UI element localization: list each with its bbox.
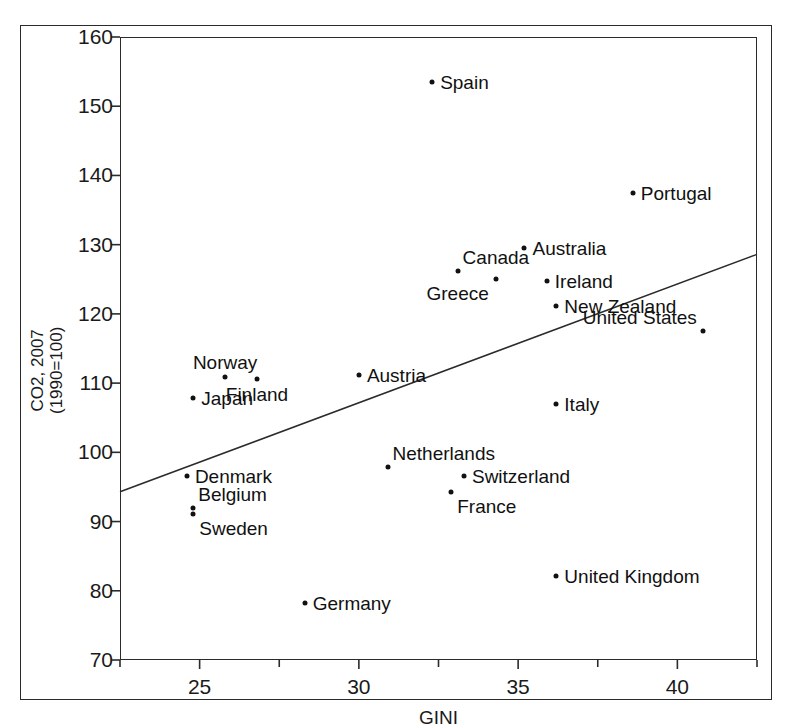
data-point-marker xyxy=(700,329,705,334)
data-point-label: Norway xyxy=(193,352,257,371)
data-point-label: Austria xyxy=(367,366,426,385)
data-point-marker xyxy=(385,464,390,469)
data-point-label: Belgium xyxy=(198,484,267,503)
data-point-marker xyxy=(223,374,228,379)
data-point-marker xyxy=(254,376,259,381)
data-point-marker xyxy=(554,573,559,578)
data-point-label: Japan xyxy=(201,389,253,408)
data-point-marker xyxy=(430,79,435,84)
x-axis-tick-label: 40 xyxy=(666,676,689,697)
data-point-label: Switzerland xyxy=(472,466,570,485)
y-axis-tick-label: 100 xyxy=(78,441,113,462)
y-axis-title-line2: (1990=100) xyxy=(47,327,66,414)
y-axis-tick-label: 130 xyxy=(78,234,113,255)
x-axis-title: GINI xyxy=(419,708,458,727)
data-point-label: Australia xyxy=(532,239,606,258)
data-point-label: Netherlands xyxy=(393,443,495,462)
data-point-label: United Kingdom xyxy=(564,566,699,585)
data-point-label: Sweden xyxy=(199,518,268,537)
data-point-marker xyxy=(554,401,559,406)
y-axis-tick-label: 160 xyxy=(78,26,113,47)
data-point-marker xyxy=(302,600,307,605)
data-point-marker xyxy=(449,489,454,494)
y-axis-tick-label: 110 xyxy=(80,372,113,393)
data-point-marker xyxy=(461,473,466,478)
data-point-label: Italy xyxy=(564,394,599,413)
data-point-label: Spain xyxy=(440,72,489,91)
data-point-label: United States xyxy=(583,308,697,327)
x-axis-tick-label: 35 xyxy=(506,676,529,697)
x-axis-tick-label: 25 xyxy=(188,676,211,697)
y-axis-tick-label: 140 xyxy=(78,164,113,185)
y-axis-tick-label: 80 xyxy=(90,580,113,601)
data-point-label: Ireland xyxy=(555,271,613,290)
data-point-label: Portugal xyxy=(641,183,712,202)
y-axis-tick-label: 70 xyxy=(90,649,113,670)
data-point-marker xyxy=(455,268,460,273)
data-point-label: Canada xyxy=(463,247,530,266)
data-point-label: Germany xyxy=(313,593,391,612)
data-point-marker xyxy=(184,473,189,478)
data-point-marker xyxy=(630,190,635,195)
y-axis-tick-label: 150 xyxy=(78,95,113,116)
x-axis-tick-label: 30 xyxy=(347,676,370,697)
y-axis-tick-label: 120 xyxy=(78,303,113,324)
data-point-marker xyxy=(356,373,361,378)
y-axis-tick-label: 90 xyxy=(90,511,113,532)
y-axis-title: CO2, 2007 (1990=100) xyxy=(28,327,66,414)
data-point-marker xyxy=(544,278,549,283)
data-point-marker xyxy=(554,303,559,308)
data-point-marker xyxy=(191,511,196,516)
data-point-label: Greece xyxy=(427,284,489,303)
y-axis-title-line1: CO2, 2007 xyxy=(28,330,47,412)
data-point-marker xyxy=(191,396,196,401)
data-point-label: France xyxy=(457,496,516,515)
data-point-marker xyxy=(493,277,498,282)
data-point-marker xyxy=(191,505,196,510)
